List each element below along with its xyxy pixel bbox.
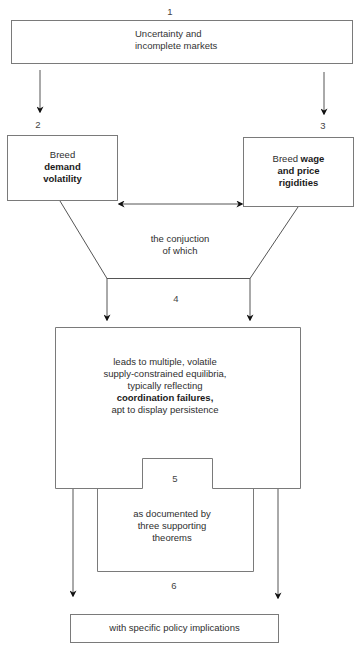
- node-4-number: 4: [173, 293, 178, 304]
- node-2-line-1: Breed: [7, 149, 118, 161]
- node-3-text: Breed wage and price rigidities: [243, 153, 354, 189]
- node-4-line-5: apt to display persistence: [80, 404, 250, 416]
- diagram-canvas: [0, 0, 359, 645]
- node-3-bold-1: wage: [301, 153, 325, 164]
- node-2-bold-2: volatility: [7, 173, 118, 185]
- node-3-bold-3: rigidities: [243, 177, 354, 189]
- node-1-number: 1: [167, 6, 172, 17]
- node-6-number: 6: [171, 580, 176, 591]
- node-3-number: 3: [320, 120, 325, 131]
- connector-label: the conjuction of which: [120, 233, 240, 257]
- node-6-text: with specific policy implications: [70, 622, 279, 634]
- node-3-plain: Breed: [273, 153, 301, 164]
- node-5-text: as documented by three supporting theore…: [112, 508, 232, 544]
- node-3-bold-2: and price: [243, 165, 354, 177]
- node-5-line-2: three supporting: [112, 520, 232, 532]
- node-5-line-3: theorems: [112, 532, 232, 544]
- node-4-text: leads to multiple, volatile supply-const…: [80, 356, 250, 416]
- node-1-line-1: Uncertainty and: [135, 28, 217, 40]
- node-4-line-3: typically reflecting: [80, 380, 250, 392]
- node-2-bold-1: demand: [7, 161, 118, 173]
- node-4-bold: coordination failures,: [80, 392, 250, 404]
- node-5-line-1: as documented by: [112, 508, 232, 520]
- node-5-number: 5: [172, 473, 177, 484]
- connector-label-line-1: the conjuction: [120, 233, 240, 245]
- node-2-number: 2: [35, 119, 40, 130]
- node-3-line-1: Breed wage: [243, 153, 354, 165]
- node-1-line-2: incomplete markets: [135, 40, 217, 52]
- node-2-text: Breed demand volatility: [7, 149, 118, 185]
- connector-label-line-2: of which: [120, 245, 240, 257]
- node-4-line-2: supply-constrained equilibria,: [80, 368, 250, 380]
- node-1-text: Uncertainty and incomplete markets: [135, 28, 217, 52]
- node-4-line-1: leads to multiple, volatile: [80, 356, 250, 368]
